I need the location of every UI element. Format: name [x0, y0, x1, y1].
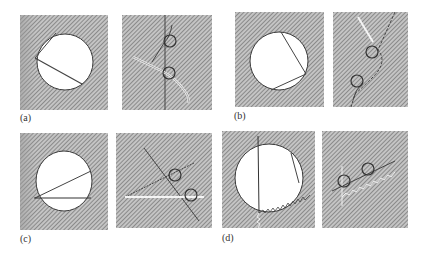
trace-diagram-a	[122, 15, 212, 110]
panel-d-trace	[322, 131, 408, 228]
panel-label-a: (a)	[20, 112, 31, 123]
trace-diagram-d	[322, 131, 408, 228]
panel-b-trace	[333, 12, 408, 107]
panel-label-d: (d)	[222, 232, 234, 243]
trace-diagram-c	[116, 133, 212, 228]
panel-a-hole	[20, 15, 108, 110]
hole-diagram-c	[20, 133, 108, 230]
panel-label-c: (c)	[20, 233, 31, 244]
hole-diagram-d	[222, 131, 315, 228]
hole-diagram-a	[20, 15, 108, 110]
panel-d-hole	[222, 131, 315, 228]
panel-c-trace	[116, 133, 212, 228]
panel-a-trace	[122, 15, 212, 110]
trace-diagram-b	[333, 12, 408, 107]
hole-diagram-b	[235, 12, 324, 107]
panel-b-hole	[235, 12, 324, 107]
panel-c-hole	[20, 133, 108, 230]
panel-label-b: (b)	[234, 110, 246, 121]
